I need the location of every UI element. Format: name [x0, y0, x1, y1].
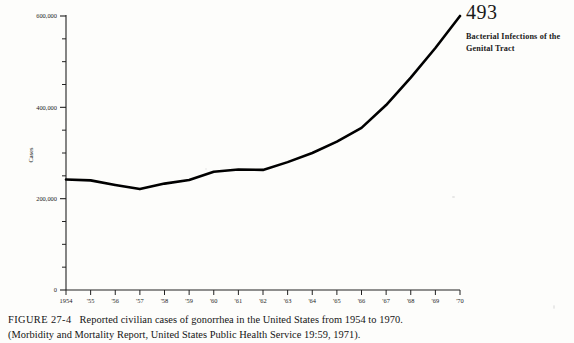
- x-tick-label: '64: [308, 297, 316, 304]
- data-series-gonorrhea-cases: [66, 16, 460, 189]
- x-tick-label: '58: [161, 297, 169, 304]
- x-tick-label: '68: [407, 297, 415, 304]
- y-axis: 0200,000400,000600,000: [36, 12, 66, 293]
- figure-caption-source: (Morbidity and Mortality Report, United …: [8, 328, 556, 343]
- x-tick-label: '70: [456, 297, 464, 304]
- x-tick-label: '60: [210, 297, 218, 304]
- figure-caption-text: Reported civilian cases of gonorrhea in …: [80, 314, 403, 325]
- line-chart: 0200,000400,000600,000 1954'55'56'57'58'…: [0, 0, 470, 312]
- y-tick-label: 600,000: [36, 12, 57, 19]
- figure-caption: FIGURE 27-4Reported civilian cases of go…: [8, 313, 556, 343]
- x-tick-label: '57: [136, 297, 144, 304]
- x-tick-label: '67: [382, 297, 390, 304]
- page-number: 493: [466, 2, 574, 22]
- x-tick-label: '55: [87, 297, 95, 304]
- paper-speck: [205, 168, 207, 170]
- paper-speck: [452, 196, 455, 198]
- y-tick-label: 400,000: [36, 104, 57, 111]
- x-tick-label: '61: [235, 297, 243, 304]
- chapter-title-line-1: Bacterial Infections of the: [466, 32, 560, 41]
- x-axis: 1954'55'56'57'58'59'60'61'62'63'64'65'66…: [60, 290, 464, 304]
- x-tick-label: '65: [333, 297, 341, 304]
- x-tick-label: '59: [185, 297, 193, 304]
- x-tick-label: 1954: [60, 297, 74, 304]
- y-tick-label: 200,000: [36, 195, 57, 202]
- y-tick-label: 0: [54, 286, 57, 293]
- paper-speck: [553, 305, 555, 309]
- chart-svg: 0200,000400,000600,000 1954'55'56'57'58'…: [0, 0, 470, 312]
- chapter-title-line-2: Genital Tract: [466, 44, 515, 53]
- figure-label: FIGURE 27-4: [8, 314, 72, 325]
- x-tick-label: '62: [259, 297, 267, 304]
- x-tick-label: '69: [432, 297, 440, 304]
- x-tick-label: '63: [284, 297, 292, 304]
- x-tick-label: '56: [111, 297, 119, 304]
- x-tick-label: '66: [358, 297, 366, 304]
- series-line: [66, 16, 460, 189]
- running-head: 493 Bacterial Infections of the Genital …: [466, 2, 574, 55]
- chapter-title: Bacterial Infections of the Genital Trac…: [466, 31, 574, 55]
- y-axis-title-text: Cases: [27, 147, 34, 162]
- figure-page: 493 Bacterial Infections of the Genital …: [0, 0, 574, 343]
- y-axis-title: Cases: [27, 147, 34, 162]
